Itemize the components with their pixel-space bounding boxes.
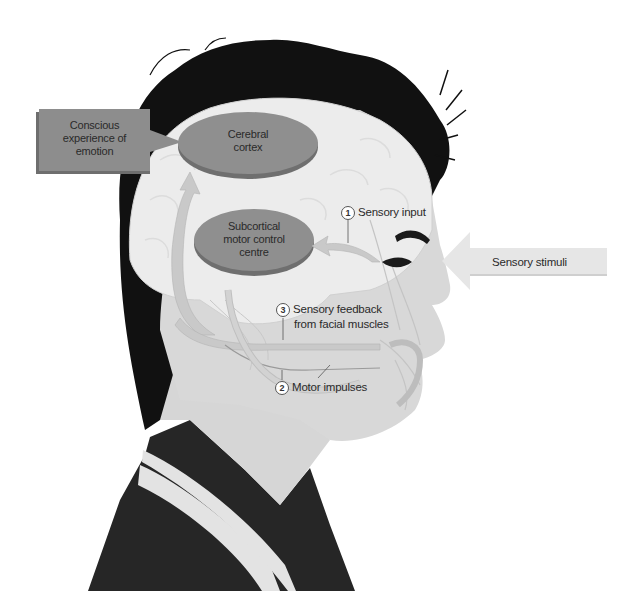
cerebral-cortex-label: Cerebral cortex <box>198 128 298 154</box>
subcortical-label: Subcortical motor control centre <box>204 220 304 259</box>
head-illustration <box>0 0 619 591</box>
emotion-box-label: Conscious experience of emotion <box>39 119 150 158</box>
facial-feedback-diagram: Conscious experience of emotion Cerebral… <box>0 0 619 591</box>
callout-sensory-feedback: 3Sensory feedback from facial muscles <box>276 302 389 331</box>
step-number-badge: 1 <box>341 206 355 220</box>
step-number-badge: 2 <box>275 381 289 395</box>
callout-sensory-input: 1Sensory input <box>341 205 426 220</box>
callout-motor-impulses: 2Motor impulses <box>275 380 367 395</box>
step-number-badge: 3 <box>276 303 290 317</box>
sensory-stimuli-label: Sensory stimuli <box>492 255 567 269</box>
